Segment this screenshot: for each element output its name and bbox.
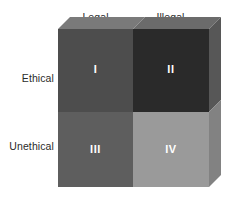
top-bevel-left-facet <box>58 17 145 29</box>
row-header-unethical: Unethical <box>9 140 54 152</box>
quadrant-i: I <box>58 29 133 112</box>
ethics-legality-matrix-figure: Legal Illegal Ethical Unethical I II <box>0 0 232 200</box>
quadrant-iv: IV <box>133 112 209 187</box>
quadrant-iv-numeral: IV <box>165 144 177 155</box>
top-bevel-right-facet <box>133 17 221 29</box>
quadrant-iii: III <box>58 112 133 187</box>
quadrant-iii-numeral: III <box>90 144 101 155</box>
quadrant-ii: II <box>133 29 209 112</box>
side-panel-lower-facet <box>209 100 221 187</box>
block-right-side <box>209 17 222 187</box>
quadrant-i-numeral: I <box>94 64 98 75</box>
side-panel-upper-facet <box>209 17 221 112</box>
matrix-front-face: I II III IV <box>58 29 209 187</box>
row-header-ethical: Ethical <box>22 72 54 84</box>
quadrant-ii-numeral: II <box>167 64 174 75</box>
matrix-block: I II III IV <box>58 29 209 187</box>
block-top-bevel <box>58 17 209 29</box>
